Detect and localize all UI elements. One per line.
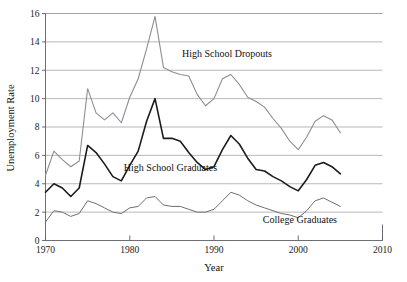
series-label-high-school-graduates: High School Graduates: [124, 162, 217, 173]
chart-figure: 0246810121416 19701980199020002010 High …: [0, 0, 407, 282]
y-tick-label-10: 10: [30, 94, 40, 104]
y-tick-labels-group: 0246810121416: [30, 9, 40, 246]
series-label-high-school-dropouts: High School Dropouts: [182, 48, 272, 59]
series-label-college-graduates: College Graduates: [263, 214, 337, 225]
x-tick-label-1970: 1970: [36, 245, 55, 255]
y-tick-label-14: 14: [30, 37, 40, 47]
y-tick-label-2: 2: [35, 208, 40, 218]
y-tick-label-6: 6: [35, 151, 40, 161]
x-tick-label-2000: 2000: [289, 245, 308, 255]
x-tick-label-1980: 1980: [120, 245, 139, 255]
x-tick-label-1990: 1990: [205, 245, 224, 255]
y-axis-title: Unemployment Rate: [5, 84, 16, 172]
x-axis-title: Year: [204, 262, 224, 273]
y-tick-label-16: 16: [30, 9, 40, 19]
series-lines-group: [46, 16, 341, 222]
x-tick-labels-group: 19701980199020002010: [36, 245, 392, 255]
unemployment-rate-line-chart: 0246810121416 19701980199020002010 High …: [0, 0, 407, 282]
y-tick-label-12: 12: [30, 66, 40, 76]
x-tick-label-2010: 2010: [373, 245, 392, 255]
series-line-high-school-dropouts: [46, 16, 341, 175]
y-tick-label-8: 8: [35, 122, 40, 132]
y-tick-label-4: 4: [35, 179, 40, 189]
